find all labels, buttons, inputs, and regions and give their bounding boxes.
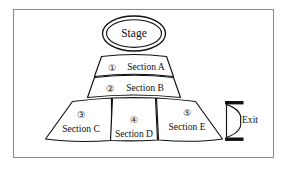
exit-icon-bottom-bar <box>225 138 244 141</box>
section-d-label: Section D <box>115 128 153 139</box>
section-b-number: ② <box>106 83 114 94</box>
section-c-group[interactable]: ③ Section C <box>46 98 112 141</box>
section-d-group[interactable]: ④ Section D <box>111 98 158 141</box>
exit-icon-lower-arc <box>227 121 241 138</box>
section-a-group[interactable]: ① Section A <box>95 55 174 77</box>
section-c-number: ③ <box>77 109 85 120</box>
section-b-group[interactable]: ② Section B <box>88 75 181 97</box>
stage-label: Stage <box>121 27 147 40</box>
seating-chart-canvas: Stage ① Section A ② Section B ③ Section … <box>0 0 288 170</box>
seating-chart-diagram: Stage ① Section A ② Section B ③ Section … <box>0 0 288 170</box>
section-b-label: Section B <box>126 82 164 93</box>
section-e-shape <box>157 98 223 141</box>
section-c-label: Section C <box>62 123 100 134</box>
section-e-label: Section E <box>168 121 205 132</box>
section-d-number: ④ <box>130 114 138 125</box>
section-a-label: Section A <box>127 61 165 72</box>
section-c-shape <box>46 98 112 141</box>
stage-group[interactable]: Stage <box>103 16 166 51</box>
exit-icon-top-bar <box>225 101 244 104</box>
exit-group[interactable]: Exit <box>225 101 258 141</box>
section-e-group[interactable]: ⑤ Section E <box>157 98 223 141</box>
section-a-number: ① <box>108 62 116 73</box>
exit-label: Exit <box>242 114 258 125</box>
exit-icon-upper-arc <box>227 104 241 121</box>
section-e-number: ⑤ <box>183 107 191 118</box>
